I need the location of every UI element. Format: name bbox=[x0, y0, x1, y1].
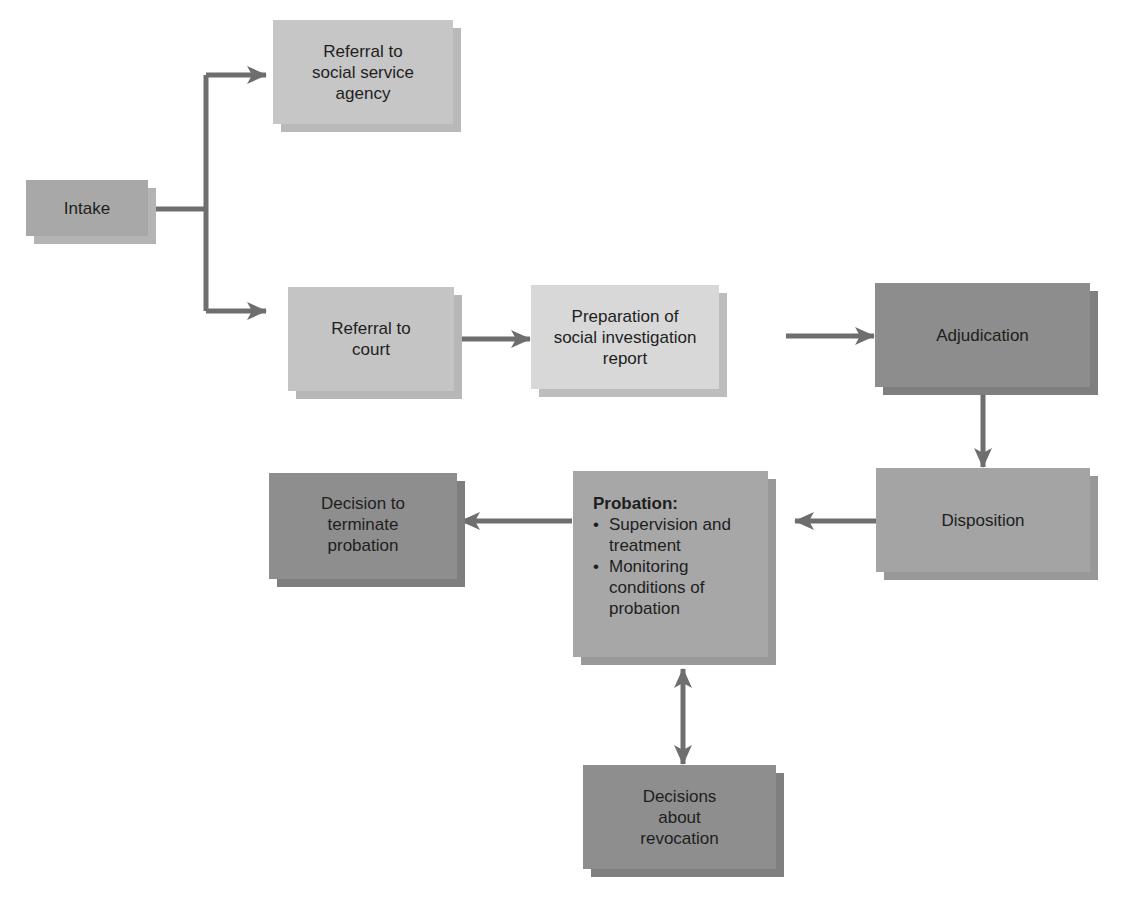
probation-items: Supervision and treatment Monitoring con… bbox=[593, 514, 731, 619]
disposition-label: Disposition bbox=[941, 510, 1024, 531]
probation-title: Probation: bbox=[593, 493, 731, 514]
intake-label: Intake bbox=[64, 198, 110, 219]
probation-content: Probation: Supervision and treatment Mon… bbox=[593, 493, 731, 619]
referral-court-label: Referral to court bbox=[331, 318, 410, 360]
node-referral-court: Referral to court bbox=[288, 287, 454, 391]
revocation-label: Decisions about revocation bbox=[640, 786, 718, 849]
node-adjudication: Adjudication bbox=[875, 283, 1090, 387]
node-disposition: Disposition bbox=[876, 468, 1090, 572]
terminate-label: Decision to terminate probation bbox=[321, 493, 405, 556]
node-intake: Intake bbox=[26, 180, 148, 236]
probation-item-supervision: Supervision and treatment bbox=[593, 514, 731, 556]
probation-flowchart: Intake Referral to social service agency… bbox=[0, 0, 1127, 911]
preparation-label: Preparation of social investigation repo… bbox=[554, 306, 697, 369]
node-terminate-probation: Decision to terminate probation bbox=[269, 473, 457, 579]
adjudication-label: Adjudication bbox=[936, 325, 1029, 346]
flow-connectors bbox=[0, 0, 1127, 911]
referral-social-label: Referral to social service agency bbox=[312, 41, 414, 104]
node-referral-social-service: Referral to social service agency bbox=[273, 20, 453, 124]
node-preparation-report: Preparation of social investigation repo… bbox=[531, 285, 719, 389]
probation-item-monitoring: Monitoring conditions of probation bbox=[593, 556, 731, 619]
node-revocation: Decisions about revocation bbox=[583, 765, 776, 869]
node-probation: Probation: Supervision and treatment Mon… bbox=[573, 471, 768, 657]
